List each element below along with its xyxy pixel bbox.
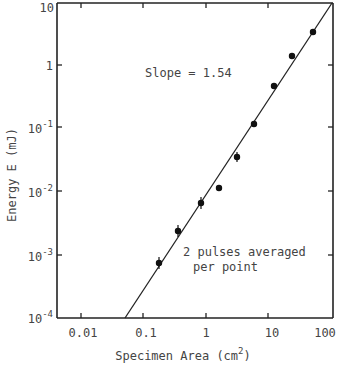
y-tick-label: 10-3 <box>28 247 53 264</box>
data-point <box>198 200 203 205</box>
y-tick-labels: 10 1 10-1 10-2 10-3 10-4 <box>28 1 54 326</box>
slope-annotation: Slope = 1.54 <box>145 66 232 80</box>
data-point <box>289 53 294 58</box>
y-tick-label: 1 <box>46 59 53 73</box>
x-tick-label: 0.1 <box>135 326 157 340</box>
note-line-2: per point <box>193 260 258 274</box>
x-tick-label: 1 <box>202 326 209 340</box>
data-point <box>251 121 256 126</box>
log-log-chart: 0.01 0.1 1 10 100 Specimen Area (cm2) 10… <box>0 0 338 367</box>
y-axis-label: Energy E (mJ) <box>5 128 19 222</box>
y-tick-label: 10-1 <box>28 119 53 136</box>
x-tick-labels: 0.01 0.1 1 10 100 <box>69 326 336 340</box>
y-ticks <box>57 65 333 255</box>
x-tick-label: 0.01 <box>69 326 98 340</box>
data-point <box>216 185 221 190</box>
data-point <box>234 154 239 159</box>
data-point <box>271 83 276 88</box>
x-axis-label: Specimen Area (cm2) <box>115 346 250 363</box>
y-tick-label: 10-2 <box>28 183 53 200</box>
y-tick-label: 10-4 <box>28 309 53 326</box>
y-tick-label: 10 <box>40 1 54 15</box>
data-point <box>310 29 315 34</box>
note-line-1: 2 pulses averaged <box>183 245 306 259</box>
x-tick-label: 100 <box>314 326 336 340</box>
data-point <box>156 260 161 265</box>
data-point <box>175 228 180 233</box>
x-tick-label: 10 <box>265 326 279 340</box>
